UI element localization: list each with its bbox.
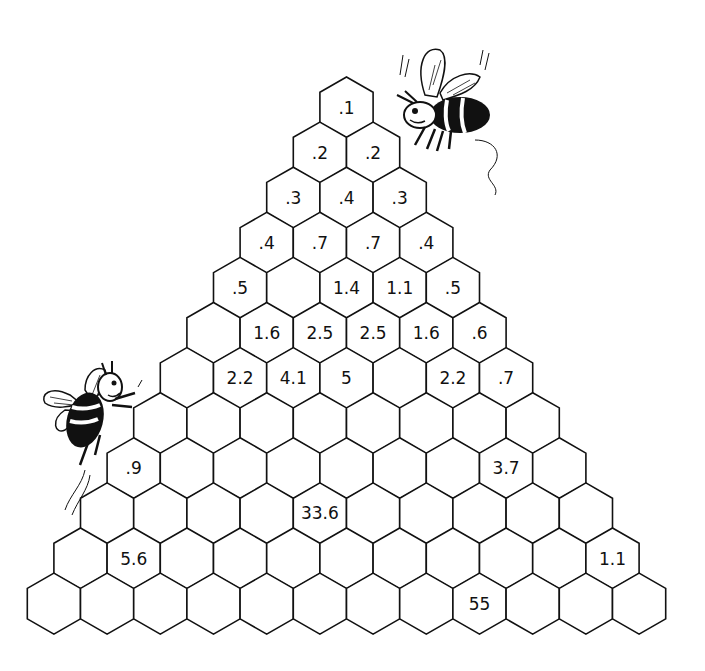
hex-value: 2.5: [360, 323, 387, 343]
hex-value: .5: [445, 278, 461, 298]
hex-value: 55: [469, 594, 491, 614]
hex-value: .4: [418, 233, 434, 253]
hex-value: 5: [341, 368, 352, 388]
hex-value: .1: [338, 98, 354, 118]
hex-value: 5.6: [120, 549, 147, 569]
hex-grid: .1.2.2.3.4.3.4.7.7.4.51.41.1.51.62.52.51…: [27, 77, 665, 634]
hex-value: .4: [338, 188, 354, 208]
hex-value: 2.5: [306, 323, 333, 343]
hex-value: 3.7: [493, 458, 520, 478]
hex-value: 2.2: [439, 368, 466, 388]
hex-value: 2.2: [227, 368, 254, 388]
hex-value: .4: [259, 233, 275, 253]
hex-value: .2: [365, 143, 381, 163]
hex-value: .3: [392, 188, 408, 208]
hex-value: .9: [126, 458, 142, 478]
hex-value: 1.1: [386, 278, 413, 298]
hex-value: .7: [312, 233, 328, 253]
hex-value: 4.1: [280, 368, 307, 388]
hex-value: 1.6: [253, 323, 280, 343]
hex-value: 1.4: [333, 278, 360, 298]
hex-value: 1.6: [413, 323, 440, 343]
hex-value: 1.1: [599, 549, 626, 569]
hex-value: 33.6: [301, 503, 339, 523]
hex-value: .7: [365, 233, 381, 253]
bee-icon: [397, 49, 497, 195]
hex-value: .6: [471, 323, 487, 343]
hex-pyramid-board: .1.2.2.3.4.3.4.7.7.4.51.41.1.51.62.52.51…: [0, 0, 705, 671]
hex-value: .2: [312, 143, 328, 163]
hex-value: .3: [285, 188, 301, 208]
hex-value: .5: [232, 278, 248, 298]
hex-value: .7: [498, 368, 514, 388]
